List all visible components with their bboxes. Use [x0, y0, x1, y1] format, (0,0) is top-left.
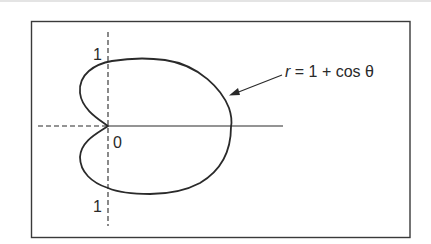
figure-frame — [32, 22, 411, 238]
axis-label-bottom-1: 1 — [93, 198, 102, 215]
axis-label-top-1: 1 — [93, 46, 102, 63]
equation-label: r = 1 + cos θ — [285, 63, 374, 80]
origin-label-0: 0 — [113, 134, 122, 151]
pointer-arrowhead-icon — [229, 88, 240, 96]
pointer-arrow-shaft — [236, 75, 282, 93]
equation-rest: = 1 + cos θ — [290, 63, 374, 80]
cardioid-figure: r = 1 + cos θ 1 1 0 — [0, 0, 431, 244]
